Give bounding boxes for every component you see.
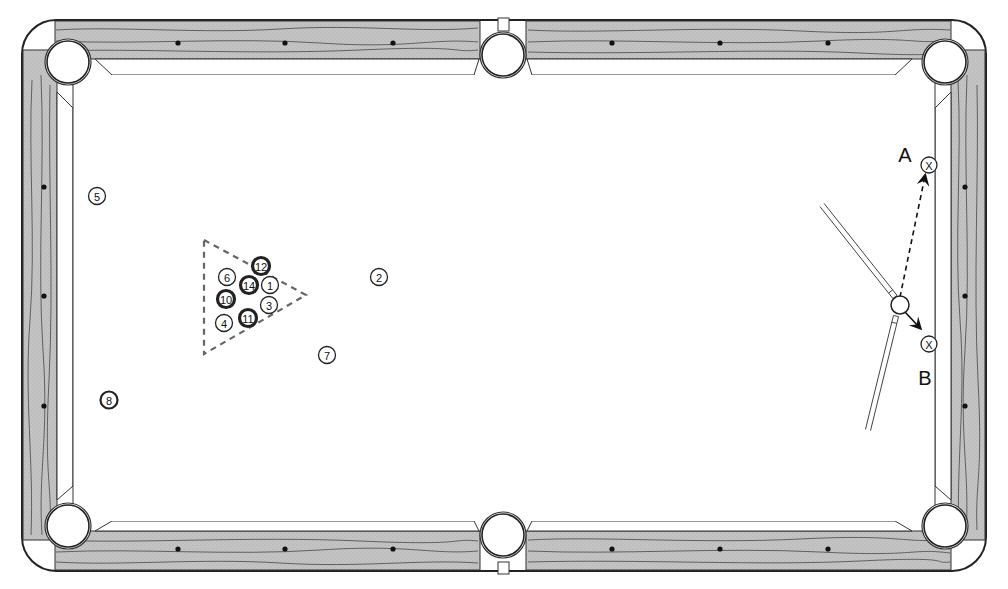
- cushion-right: [935, 92, 951, 500]
- diamond-marker: [390, 40, 395, 45]
- diamond-marker: [282, 40, 287, 45]
- side-pocket-tab-top: [498, 18, 509, 31]
- rail-top-left: [55, 21, 480, 59]
- ball-number: 11: [242, 313, 253, 325]
- rail-right: [951, 50, 985, 540]
- ball-number: 3: [266, 300, 272, 312]
- diamond-marker: [717, 40, 722, 45]
- rail-left: [23, 50, 57, 540]
- diamond-marker: [717, 546, 722, 551]
- cushion-top-left: [95, 59, 479, 75]
- ball-8: 8: [101, 392, 118, 409]
- cushion-top-right: [527, 59, 912, 75]
- side-pocket-tab-bottom: [498, 562, 509, 574]
- pool-table-diagram: 5812614110341127 XAXB: [0, 0, 1008, 589]
- ball-number: 4: [221, 318, 227, 330]
- ball-5: 5: [89, 188, 106, 205]
- diamond-marker: [962, 403, 967, 408]
- diamond-marker: [609, 40, 614, 45]
- target-label: B: [918, 367, 931, 389]
- ball-number: 12: [255, 261, 267, 273]
- diamond-marker: [962, 184, 967, 189]
- playing-surface: [73, 75, 935, 521]
- diamond-marker: [390, 546, 395, 551]
- diamond-marker: [175, 546, 180, 551]
- diamond-marker: [41, 403, 46, 408]
- ball-6: 6: [219, 269, 236, 286]
- ball-number: 5: [94, 191, 100, 203]
- ball-4: 4: [216, 315, 233, 332]
- target-label: A: [898, 144, 912, 166]
- rail-bottom-left: [55, 531, 480, 570]
- cushion-bottom-right: [527, 521, 912, 531]
- diamond-marker: [41, 184, 46, 189]
- pocket-top-left: [45, 39, 91, 85]
- diamond-marker: [825, 546, 830, 551]
- ball-number: 7: [324, 350, 330, 362]
- cue-ball: [891, 296, 909, 314]
- ball-number: 1: [267, 280, 273, 292]
- ball-10: 10: [218, 291, 235, 308]
- ball-3: 3: [261, 297, 278, 314]
- cushion-left: [57, 92, 73, 500]
- pocket-top-center: [480, 32, 526, 78]
- cushion-bottom-left: [95, 521, 479, 531]
- ball-number: 14: [243, 280, 255, 292]
- diamond-marker: [282, 546, 287, 551]
- ball-11: 11: [240, 310, 257, 327]
- pocket-bottom-center: [480, 512, 526, 558]
- ball-number: 2: [376, 272, 382, 284]
- ball-12: 12: [253, 258, 270, 275]
- diamond-marker: [825, 40, 830, 45]
- pocket-bottom-left: [45, 503, 91, 549]
- x-mark-icon: X: [925, 339, 933, 351]
- ball-1: 1: [262, 277, 279, 294]
- ball-7: 7: [319, 347, 336, 364]
- table-frame: [22, 18, 986, 574]
- x-mark-icon: X: [925, 160, 933, 172]
- diamond-marker: [962, 293, 967, 298]
- diamond-marker: [175, 40, 180, 45]
- ball-14: 14: [241, 277, 258, 294]
- ball-2: 2: [371, 269, 388, 286]
- pocket-bottom-right: [922, 503, 968, 549]
- diamond-marker: [609, 546, 614, 551]
- ball-number: 10: [220, 294, 232, 306]
- pocket-top-right: [922, 39, 968, 85]
- diamond-marker: [41, 293, 46, 298]
- ball-number: 8: [106, 395, 112, 407]
- ball-number: 6: [224, 272, 230, 284]
